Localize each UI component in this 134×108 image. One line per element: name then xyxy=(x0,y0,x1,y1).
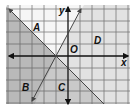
y-axis-label: y xyxy=(58,5,65,16)
region-label-d: D xyxy=(94,35,101,46)
region-label-c: C xyxy=(58,82,66,93)
region-label-a: A xyxy=(32,22,40,33)
origin-label: O xyxy=(70,44,78,55)
region-label-b: B xyxy=(22,82,29,93)
x-axis-label: x xyxy=(120,57,127,68)
coordinate-plane-diagram: A B C D y x O xyxy=(0,0,134,108)
